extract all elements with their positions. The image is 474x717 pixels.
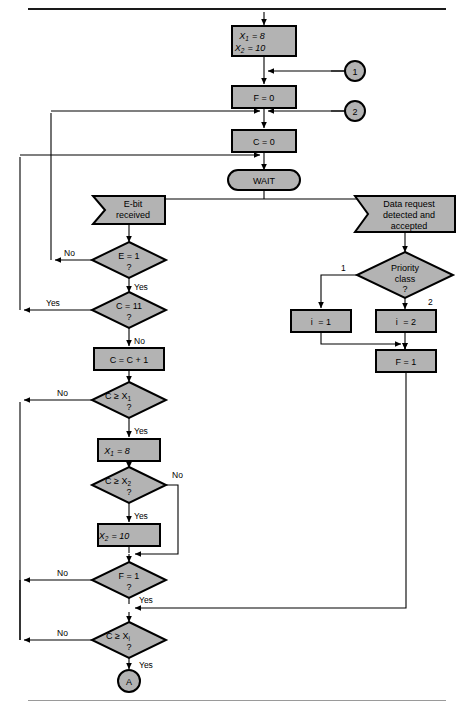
node-ebit-line1: E-bit (124, 199, 143, 209)
svg-text:X1= 8: X1= 8 (238, 31, 264, 42)
node-ebit-line2: received (116, 210, 150, 220)
node-f-set-1-label: F = 1 (396, 357, 417, 367)
node-c-increment: C = C + 1 (94, 348, 164, 370)
node-c-zero: C = 0 (232, 130, 296, 152)
node-c-ge-xi-line2: ? (126, 642, 131, 652)
node-priority-line2: class (395, 274, 416, 284)
edge-label-e-yes: Yes (134, 282, 148, 292)
node-i-eq-1: i = 1 (291, 310, 351, 332)
svg-text:C ≥ Xi: C ≥ Xi (106, 631, 130, 642)
node-c-ge-x2: C ≥ X2 ? (92, 467, 166, 503)
connector-2-label: 2 (352, 107, 357, 117)
node-x2-set: X2= 10 (98, 524, 160, 546)
node-c-eq-11: C = 11 ? (92, 292, 166, 328)
node-e-eq-1-line1: E = 1 (118, 251, 139, 261)
edge-label-priority-1: 1 (341, 263, 346, 273)
figure-canvas: X1= 8 X2= 10 F = 0 C = 0 WAIT E-bit rece… (0, 0, 474, 717)
edge-label-cxi-yes: Yes (139, 660, 153, 670)
node-data-request: Data request detected and accepted (355, 196, 455, 232)
edge-label-e-no: No (64, 248, 75, 258)
node-priority-line1: Priority (391, 263, 420, 273)
node-data-request-line1: Data request (383, 199, 435, 209)
connector-1: 1 (345, 61, 365, 81)
connector-a-label: A (126, 677, 132, 687)
node-data-request-line3: accepted (391, 221, 428, 231)
node-priority-class: Priority class ? (357, 252, 453, 298)
node-wait-label: WAIT (253, 176, 276, 186)
node-e-eq-1: E = 1 ? (92, 242, 166, 278)
edge-label-cx1-yes: Yes (134, 426, 148, 436)
node-f-zero: F = 0 (232, 86, 296, 108)
edge-label-cx2-no: No (172, 470, 183, 480)
svg-text:X2= 10: X2= 10 (234, 43, 265, 54)
node-f-eq-1: F = 1 ? (92, 562, 166, 598)
connector-2: 2 (345, 101, 365, 121)
node-init: X1= 8 X2= 10 (232, 26, 296, 56)
node-f-eq-1-line1: F = 1 (119, 571, 140, 581)
edge-label-f-yes: Yes (139, 595, 153, 605)
node-c-ge-x2-line2: ? (126, 487, 131, 497)
node-data-request-line2: detected and (383, 210, 435, 220)
edge-label-cxi-no: No (57, 628, 68, 638)
node-c-eq-11-line2: ? (126, 312, 131, 322)
node-c-ge-x1-line2: ? (126, 402, 131, 412)
node-c-eq-11-line1: C = 11 (116, 301, 142, 311)
node-c-ge-xi: C ≥ Xi ? (92, 622, 166, 658)
node-wait: WAIT (228, 170, 300, 190)
node-i-eq-2: i = 2 (376, 310, 436, 332)
connector-1-label: 1 (352, 67, 357, 77)
edge-label-cx1-no: No (57, 388, 68, 398)
edge-label-f-no: No (57, 568, 68, 578)
svg-text:X1= 8: X1= 8 (103, 446, 129, 457)
node-f-set-1: F = 1 (376, 350, 436, 372)
connector-a: A (118, 670, 140, 692)
node-c-zero-label: C = 0 (253, 137, 275, 147)
node-e-eq-1-line2: ? (126, 262, 131, 272)
node-c-ge-x1: C ≥ X1 ? (92, 382, 166, 418)
edge-label-cx2-yes: Yes (134, 511, 148, 521)
node-f-eq-1-line2: ? (126, 582, 131, 592)
svg-text:X2= 10: X2= 10 (98, 531, 129, 542)
node-x1-set: X1= 8 (98, 439, 160, 461)
edge-label-c11-no: No (134, 336, 145, 346)
edge-label-c11-yes: Yes (46, 298, 60, 308)
edge-label-priority-2: 2 (428, 297, 433, 307)
node-c-increment-label: C = C + 1 (110, 355, 149, 365)
node-ebit-received: E-bit received (93, 196, 165, 224)
node-f-zero-label: F = 0 (254, 93, 275, 103)
node-priority-line3: ? (402, 284, 407, 294)
flowchart-svg: X1= 8 X2= 10 F = 0 C = 0 WAIT E-bit rece… (0, 0, 474, 717)
